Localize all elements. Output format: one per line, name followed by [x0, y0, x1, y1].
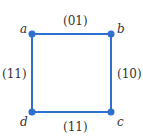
graph-diagram: a b c d (01) (10) (11) (11): [0, 0, 143, 136]
node-c: [108, 109, 115, 116]
node-label-c: c: [117, 115, 124, 129]
edge-label-d-c: (11): [63, 120, 88, 134]
node-label-b: b: [117, 22, 125, 36]
edge-label-b-c: (10): [117, 67, 142, 81]
node-label-a: a: [20, 22, 27, 36]
node-b: [108, 31, 115, 38]
edges: [32, 34, 111, 112]
edge-label-a-b: (01): [63, 14, 88, 28]
edge-label-a-d: (11): [2, 67, 27, 81]
node-label-d: d: [20, 115, 28, 129]
node-d: [29, 109, 36, 116]
node-a: [29, 31, 36, 38]
nodes: [29, 31, 115, 116]
